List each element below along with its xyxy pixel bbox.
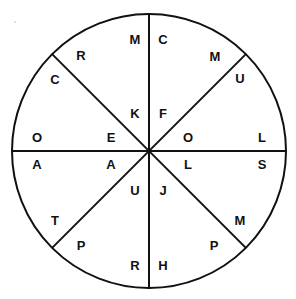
sector-label: C <box>50 73 59 86</box>
sector-label: O <box>32 131 42 144</box>
sector-label: L <box>184 158 192 171</box>
sector-label: K <box>130 107 139 120</box>
sector-label: R <box>130 259 139 272</box>
sector-label: M <box>210 50 221 63</box>
sector-label: A <box>32 158 41 171</box>
sector-label: M <box>130 33 141 46</box>
sector-label: P <box>77 239 86 252</box>
sector-label: E <box>107 131 116 144</box>
circle-diagram: M C R C M U K F E O O L A A L S U J T P … <box>0 0 296 299</box>
sector-label: J <box>159 184 166 197</box>
sector-label: L <box>258 131 266 144</box>
sector-label: P <box>210 239 219 252</box>
sector-label: U <box>235 72 244 85</box>
sector-label: H <box>158 259 167 272</box>
sector-label: M <box>235 214 246 227</box>
sector-label: S <box>258 158 267 171</box>
sector-label: R <box>76 49 85 62</box>
background-speck <box>14 21 16 23</box>
wheel-graphic <box>0 0 296 299</box>
sector-label: F <box>159 107 167 120</box>
sector-label: T <box>51 214 59 227</box>
sector-label: C <box>158 33 167 46</box>
sector-label: O <box>183 131 193 144</box>
sector-label: U <box>130 184 139 197</box>
sector-label: A <box>106 158 115 171</box>
